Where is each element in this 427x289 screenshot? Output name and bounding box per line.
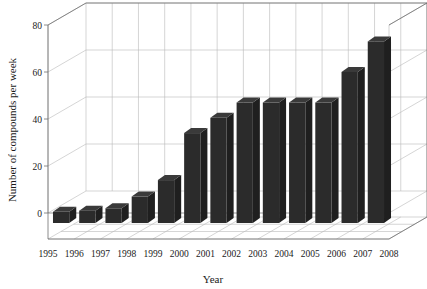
x-tick-label: 1995 (39, 249, 58, 259)
x-tick-label: 2007 (353, 249, 372, 259)
y-tick-label: 80 (33, 21, 43, 31)
bar-2004 (289, 98, 312, 223)
x-tick-label: 2004 (275, 249, 294, 259)
chart-container: 020406080 199519961997199819992000200120… (0, 0, 427, 289)
bar-2005 (315, 98, 338, 223)
x-tick-label: 2008 (380, 249, 399, 259)
y-axis-title: Number of compounds per week (6, 57, 18, 202)
y-tick-label: 0 (37, 209, 42, 219)
bar-1998 (132, 192, 155, 223)
bar-1997 (105, 203, 128, 223)
x-tick-label: 2002 (222, 249, 241, 259)
x-tick-label: 2005 (301, 249, 320, 259)
bar-2003 (263, 98, 286, 223)
bar-2002 (237, 98, 260, 223)
bar-2001 (210, 113, 233, 223)
y-tick-label: 40 (33, 115, 43, 125)
bar-2000 (184, 128, 207, 223)
x-tick-label: 2000 (170, 249, 189, 259)
bar-1999 (158, 175, 181, 223)
y-tick-label: 60 (33, 68, 43, 78)
x-tick-label: 2001 (196, 249, 215, 259)
x-axis-title: Year (203, 273, 224, 285)
x-tick-label: 1997 (91, 249, 110, 259)
bar-1996 (79, 206, 102, 223)
bar-2006 (342, 67, 365, 223)
x-tick-label: 1999 (143, 249, 162, 259)
y-tick-label: 20 (33, 162, 43, 172)
x-tick-label: 1996 (65, 249, 84, 259)
bar-2007 (368, 36, 391, 223)
bar-chart-3d: 020406080 199519961997199819992000200120… (0, 0, 427, 289)
x-tick-label: 1998 (117, 249, 136, 259)
x-tick-label: 2006 (327, 249, 346, 259)
x-tick-label: 2003 (248, 249, 267, 259)
